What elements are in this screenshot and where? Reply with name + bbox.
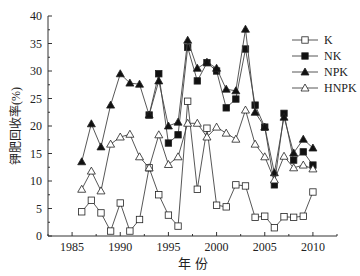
legend-item-k: K — [292, 33, 333, 47]
data-point-triangle — [87, 167, 95, 174]
data-point-triangle — [222, 85, 230, 92]
data-point-square — [117, 200, 123, 206]
x-tick-label: 2005 — [253, 240, 277, 254]
data-point-square — [79, 209, 85, 215]
data-point-triangle — [87, 120, 95, 127]
data-point-square — [300, 213, 306, 219]
data-point-square — [107, 228, 113, 234]
x-tick-label: 1990 — [108, 240, 132, 254]
y-axis-label: 钾肥回收率(%) — [8, 87, 23, 165]
data-point-square — [156, 71, 162, 77]
data-point-square — [302, 37, 308, 43]
data-point-triangle — [241, 106, 249, 113]
data-point-square — [242, 183, 248, 189]
data-point-triangle — [270, 176, 278, 183]
x-tick-label: 1995 — [156, 240, 180, 254]
data-point-square — [300, 149, 306, 155]
y-tick-label: 20 — [30, 119, 42, 133]
data-point-triangle — [301, 68, 309, 75]
data-point-square — [223, 204, 229, 210]
y-tick-label: 15 — [30, 147, 42, 161]
data-point-square — [213, 202, 219, 208]
legend-item-npk: NPK — [292, 65, 348, 79]
data-point-triangle — [126, 130, 134, 137]
data-point-square — [271, 225, 277, 231]
data-point-square — [290, 214, 296, 220]
data-point-square — [233, 96, 239, 102]
y-tick-label: 25 — [30, 92, 42, 106]
data-point-triangle — [97, 187, 105, 194]
data-point-triangle — [213, 123, 221, 130]
series-line — [149, 47, 313, 184]
data-point-square — [262, 213, 268, 219]
data-point-triangle — [222, 129, 230, 136]
data-point-square — [184, 98, 190, 104]
data-point-square — [281, 214, 287, 220]
data-point-square — [302, 53, 308, 59]
data-point-square — [204, 125, 210, 131]
data-point-triangle — [299, 161, 307, 168]
x-tick-label: 2000 — [205, 240, 229, 254]
data-point-triangle — [174, 118, 182, 125]
y-tick-label: 30 — [30, 64, 42, 78]
y-tick-label: 40 — [30, 9, 42, 23]
series-npk — [78, 25, 317, 176]
x-tick-label: 1985 — [60, 240, 84, 254]
data-point-triangle — [164, 161, 172, 168]
y-tick-label: 10 — [30, 174, 42, 188]
y-tick-label: 0 — [36, 229, 42, 243]
data-point-square — [156, 192, 162, 198]
legend-item-nk: NK — [292, 49, 342, 63]
data-point-triangle — [107, 140, 115, 147]
data-point-square — [310, 189, 316, 195]
x-axis-label: 年 份 — [178, 256, 207, 271]
line-chart: 1985199019952000200520100510152025303540… — [0, 0, 360, 276]
data-point-square — [194, 78, 200, 84]
data-point-triangle — [193, 64, 201, 71]
series-layer — [78, 25, 317, 234]
legend-label: HNPK — [324, 81, 357, 95]
data-point-square — [233, 182, 239, 188]
data-point-triangle — [116, 70, 124, 77]
data-point-triangle — [174, 153, 182, 160]
data-point-square — [252, 214, 258, 220]
data-point-triangle — [241, 25, 249, 32]
legend-label: NK — [324, 49, 342, 63]
data-point-square — [194, 186, 200, 192]
data-point-triangle — [232, 135, 240, 142]
legend-label: K — [324, 33, 333, 47]
x-tick-label: 2010 — [301, 240, 325, 254]
data-point-square — [165, 140, 171, 146]
legend-item-hnpk: HNPK — [292, 81, 357, 95]
data-point-triangle — [290, 149, 298, 156]
data-point-triangle — [155, 131, 163, 138]
data-point-square — [165, 212, 171, 218]
y-tick-label: 35 — [30, 37, 42, 51]
data-point-square — [88, 197, 94, 203]
data-point-triangle — [299, 135, 307, 142]
data-point-square — [252, 102, 258, 108]
data-point-triangle — [78, 185, 86, 192]
series-line — [82, 29, 313, 173]
data-point-triangle — [97, 143, 105, 150]
data-point-square — [98, 210, 104, 216]
data-point-triangle — [301, 84, 309, 91]
data-point-triangle — [136, 153, 144, 160]
data-point-triangle — [261, 153, 269, 160]
chart-container: 1985199019952000200520100510152025303540… — [0, 0, 360, 276]
data-point-square — [290, 157, 296, 163]
data-point-triangle — [280, 152, 288, 159]
legend-label: NPK — [324, 65, 348, 79]
data-point-square — [223, 105, 229, 111]
legend: KNKNPKHNPK — [292, 33, 357, 95]
data-point-square — [175, 132, 181, 138]
data-point-triangle — [78, 158, 86, 165]
data-point-triangle — [107, 101, 115, 108]
y-tick-label: 5 — [36, 202, 42, 216]
data-point-triangle — [193, 119, 201, 126]
data-point-triangle — [184, 36, 192, 43]
data-point-square — [127, 228, 133, 234]
data-point-triangle — [251, 140, 259, 147]
data-point-square — [136, 216, 142, 222]
data-point-square — [175, 223, 181, 229]
